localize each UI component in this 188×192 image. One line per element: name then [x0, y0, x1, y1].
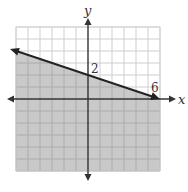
y-axis-label: y: [83, 3, 92, 18]
x-intercept-label: 6: [151, 81, 159, 95]
inequality-graph: y x 2 6: [0, 0, 188, 192]
y-intercept-label: 2: [91, 62, 99, 76]
x-axis-label: x: [178, 92, 186, 107]
